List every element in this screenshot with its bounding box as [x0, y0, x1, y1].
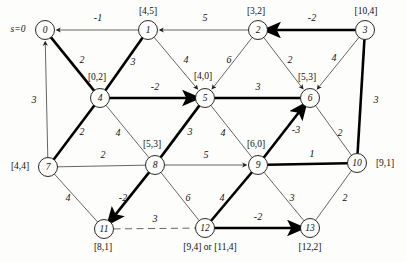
node-2-id: 2	[256, 26, 261, 36]
node-3-label: [10,4]	[355, 7, 378, 17]
edge-11-12	[113, 228, 195, 229]
edge-6-10-weight: 2	[338, 128, 343, 138]
node-5-id: 5	[203, 94, 208, 104]
edge-8-5	[161, 106, 200, 158]
node-2-label: [3,2]	[247, 7, 265, 17]
node-11-label: [8,1]	[94, 243, 112, 253]
edge-9-6-weight: -3	[292, 125, 300, 135]
edge-12-8-weight: 6	[186, 193, 191, 203]
edge-3-6	[318, 37, 359, 88]
edge-7-4-weight: 2	[80, 127, 85, 137]
edge-8-11-weight: -2	[119, 193, 127, 203]
edge-3-10-weight: 3	[374, 95, 379, 105]
node-4-label: [0,2]	[88, 73, 106, 83]
edge-9-10	[267, 163, 347, 165]
edge-0-7	[45, 42, 48, 158]
node-6-id: 6	[308, 94, 313, 104]
edge-4-1-weight: 3	[131, 57, 136, 67]
edge-2-5-weight: 6	[227, 55, 232, 65]
node-11-id: 11	[100, 225, 109, 235]
edge-2-6-weight: 2	[288, 55, 293, 65]
edge-1-5-weight: 4	[184, 55, 189, 65]
edge-8-9-weight: 5	[204, 150, 209, 160]
node-1-id: 1	[146, 26, 151, 36]
edge-8-5-weight: 3	[188, 127, 193, 137]
node-12-label: [9,4] or [11,4]	[183, 243, 236, 253]
node-8-id: 8	[153, 161, 158, 171]
network-diagram-figure: -15-2234624-232434-33232514-264323-201[4…	[0, 0, 407, 262]
edge-12-8	[161, 172, 199, 220]
edge-2-6	[264, 38, 303, 89]
node-6-label: [5,3]	[298, 73, 316, 83]
edge-9-13-weight: 3	[290, 193, 295, 203]
node-12-id: 12	[200, 224, 210, 234]
edge-7-8	[57, 165, 145, 167]
edge-8-11	[111, 172, 149, 219]
node-7-id: 7	[46, 163, 51, 173]
edge-0-7-weight: 3	[32, 95, 37, 105]
edge-9-10-weight: 1	[310, 149, 315, 159]
edge-5-6-weight: 3	[256, 82, 261, 92]
edge-3-6-weight: 4	[332, 53, 337, 63]
edge-12-9-weight: 4	[220, 193, 225, 203]
node-10-label: [9,1]	[376, 159, 394, 169]
node-4-id: 4	[98, 94, 103, 104]
node-1-label: [4,5]	[139, 7, 157, 17]
edge-3-10	[358, 39, 365, 153]
edge-4-5-weight: -2	[151, 82, 159, 92]
edge-4-1	[105, 38, 142, 90]
node-layer	[36, 21, 375, 239]
edge-7-11-weight: 4	[66, 193, 71, 203]
node-0-id: 0	[43, 26, 48, 36]
edge-11-12-weight: 3	[153, 214, 158, 224]
node-9-label: [6,0]	[247, 140, 265, 150]
edge-1-5	[154, 37, 197, 89]
node-8-label: [5,3]	[143, 140, 161, 150]
edge-0-4-weight: 2	[80, 55, 85, 65]
edge-5-9-weight: 4	[221, 128, 226, 138]
node-10-id: 10	[352, 159, 362, 169]
edge-2-1-weight: 5	[203, 13, 208, 23]
node-13-id: 13	[305, 224, 315, 234]
edge-12-9	[211, 172, 252, 220]
edge-7-11	[54, 174, 97, 222]
node-5-label: [4,0]	[194, 72, 212, 82]
source-label: s=0	[11, 25, 26, 35]
edge-6-10	[316, 106, 352, 156]
edge-12-13-weight: -2	[254, 212, 262, 222]
edge-3-2-weight: -2	[308, 13, 316, 23]
edge-4-8-weight: 4	[116, 128, 121, 138]
node-3-id: 3	[363, 26, 368, 36]
node-9-id: 9	[256, 161, 261, 171]
edge-4-8	[106, 105, 149, 157]
edge-9-13	[264, 172, 304, 220]
edge-7-8-weight: 2	[101, 150, 106, 160]
edge-layer	[45, 30, 364, 229]
node-7-label: [4,4]	[11, 162, 29, 172]
edge-7-4	[54, 106, 95, 160]
edge-13-10-weight: 2	[343, 193, 348, 203]
edge-1-0-weight: -1	[94, 13, 102, 23]
node-13-label: [12,2]	[299, 243, 322, 253]
edge-2-5	[212, 37, 252, 88]
